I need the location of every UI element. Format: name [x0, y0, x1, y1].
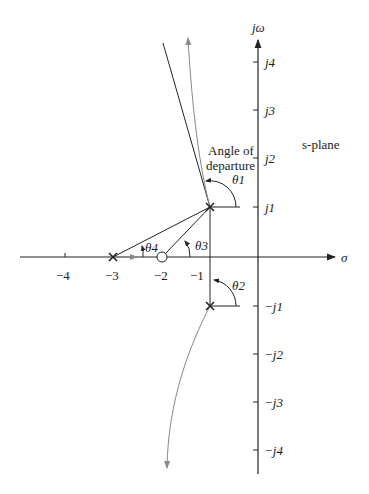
theta4-arc [142, 246, 143, 257]
s-plane-label: s-plane [302, 137, 340, 152]
locus-branch-upper [188, 38, 210, 207]
theta4-label: θ4 [145, 240, 158, 255]
tick-minus4: −4 [56, 268, 70, 283]
tick-minus-j1: −j1 [264, 299, 283, 314]
departure-tangent-line [163, 43, 210, 207]
locus-branch-lower [167, 306, 210, 468]
theta3-label: θ3 [195, 238, 208, 253]
tick-minus-j3: −j3 [264, 395, 283, 410]
tick-minus3: −3 [105, 268, 119, 283]
sigma-label: σ [341, 250, 348, 265]
tick-j4: j4 [263, 55, 276, 70]
theta3-arc [185, 241, 190, 257]
zero-minus2 [157, 252, 167, 262]
theta2-label: θ2 [232, 278, 245, 293]
tick-minus1: −1 [190, 268, 204, 283]
tick-j2: j2 [263, 151, 276, 166]
root-locus-diagram: σ jω −4 −3 −2 −1 j4 j3 j2 j1 −j1 −j2 −j3… [0, 0, 369, 494]
angle-of-departure-line2: departure [206, 158, 255, 173]
tick-minus-j2: −j2 [264, 347, 283, 362]
tick-j1: j1 [263, 200, 275, 215]
tick-j3: j3 [263, 103, 276, 118]
tick-minus2: −2 [154, 268, 168, 283]
theta1-label: θ1 [232, 172, 245, 187]
jw-label: jω [250, 20, 265, 35]
angle-of-departure-line1: Angle of [208, 143, 255, 158]
tick-minus-j4: −j4 [264, 443, 283, 458]
